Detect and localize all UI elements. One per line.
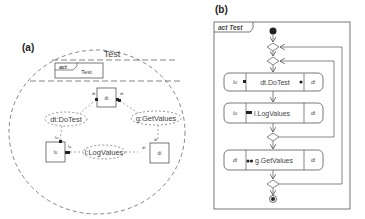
merge-node-1 xyxy=(267,43,279,51)
connector-dt-getvalues xyxy=(120,101,138,113)
action-log-values-label: l.LogValues xyxy=(254,110,291,118)
port-left-top xyxy=(59,140,62,143)
port-right-left-label: dt xyxy=(142,145,146,150)
port-left-top-label: lu xyxy=(55,135,58,140)
initial-node xyxy=(270,28,277,35)
collaboration-name: Test xyxy=(104,49,121,59)
port-left-right-label: lu xyxy=(68,144,71,149)
diagram-canvas: (a) Test act Test dt dt dt dt:DoTest g:G… xyxy=(0,0,365,219)
final-node-inner xyxy=(271,197,275,201)
action-get-values-right-pin: dt xyxy=(311,157,316,163)
panel-a: (a) Test act Test dt dt dt dt:DoTest g:G… xyxy=(9,42,185,214)
role-log-values-label: l:LogValues xyxy=(85,148,124,157)
decision-node-2 xyxy=(267,180,279,188)
port-right-top-label: dt xyxy=(154,137,158,142)
connector-dt-dotest xyxy=(80,100,96,113)
port-top-left-label: dt xyxy=(92,91,96,96)
action-do-test-right-pin: dt xyxy=(311,79,316,85)
frame-title: act Test xyxy=(218,24,243,31)
merge-node-2 xyxy=(267,57,279,65)
pin-dot-icon xyxy=(299,80,302,83)
panel-a-label: (a) xyxy=(22,42,34,53)
pin-square-icon xyxy=(246,111,249,114)
pin-square-icon xyxy=(243,80,246,83)
action-log-values-left-pin: lu xyxy=(233,110,237,116)
activity-name: Test xyxy=(81,69,92,75)
activity-keyword: act xyxy=(59,64,68,70)
panel-b-label: (b) xyxy=(215,4,228,15)
action-get-values-label: g.GetValues xyxy=(255,157,294,165)
pin-dot-icon xyxy=(250,159,253,162)
action-log-values-right-pin: dt xyxy=(311,110,316,116)
role-do-test-label: dt:DoTest xyxy=(50,115,83,124)
panel-b: (b) act Test lu dt.DoTest dt lu l.LogVal… xyxy=(214,4,350,209)
port-left-right-2 xyxy=(67,151,70,154)
decision-node-1 xyxy=(267,133,279,141)
action-do-test-left-pin: lu xyxy=(233,79,237,85)
action-do-test-label: dt.DoTest xyxy=(260,79,290,86)
port-top-right-label: dt xyxy=(120,91,124,96)
role-get-values-label: g:GetValues xyxy=(136,114,177,123)
pin-square-icon xyxy=(249,111,252,114)
loop-back-flow-1 xyxy=(279,61,334,137)
pin-dot-icon xyxy=(246,159,249,162)
connector-dotest-lu xyxy=(60,126,62,140)
action-get-values-left-pin: dt xyxy=(233,157,238,163)
part-left-name: lu xyxy=(54,150,58,155)
